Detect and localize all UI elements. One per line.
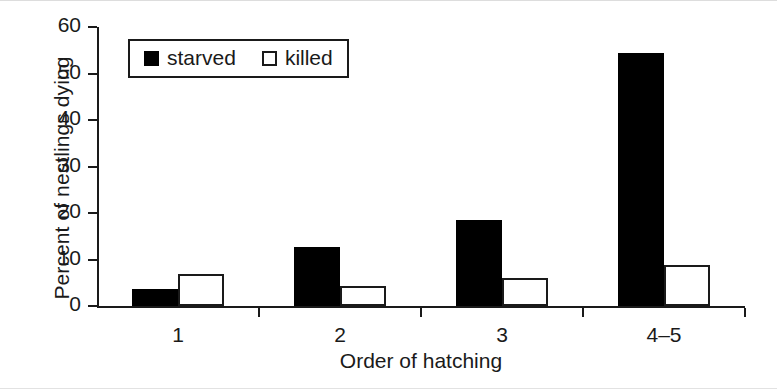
x-tick [420,308,422,317]
x-tick-label: 4–5 [646,323,681,347]
y-tick-label: 60 [58,13,81,37]
legend-label-starved: starved [167,46,236,70]
y-tick: 40 [88,119,97,121]
y-axis-line [97,27,99,306]
y-tick-label: 0 [69,292,81,316]
y-tick: 30 [88,166,97,168]
legend: starved killed [128,39,349,78]
bar-killed-1 [178,274,224,306]
y-tick: 0 [88,305,97,307]
bar-starved-2 [294,247,340,306]
bar-starved-3 [456,220,502,306]
bar-killed-2 [340,286,386,306]
bar-killed-3 [502,278,548,306]
y-tick-label: 30 [58,153,81,177]
x-axis-title: Order of hatching [97,349,745,373]
legend-entry-killed: killed [262,46,333,70]
y-tick-label: 50 [58,60,81,84]
legend-entry-starved: starved [144,46,236,70]
y-tick-label: 20 [58,199,81,223]
open-square-icon [262,51,277,66]
x-tick-label: 1 [172,323,184,347]
bar-killed-45 [664,265,710,306]
y-tick-label: 40 [58,106,81,130]
y-tick-label: 10 [58,246,81,270]
x-tick [258,308,260,317]
y-tick: 10 [88,259,97,261]
bar-starved-1 [132,289,178,306]
legend-label-killed: killed [285,46,333,70]
y-tick: 60 [88,26,97,28]
x-tick [744,308,746,317]
y-tick: 20 [88,212,97,214]
filled-square-icon [144,51,159,66]
x-tick-label: 2 [334,323,346,347]
x-tick-label: 3 [496,323,508,347]
bar-starved-45 [618,53,664,306]
y-tick: 50 [88,73,97,75]
x-tick [582,308,584,317]
bar-chart-figure: Percent of nestlings dying 0102030405060… [0,0,777,389]
